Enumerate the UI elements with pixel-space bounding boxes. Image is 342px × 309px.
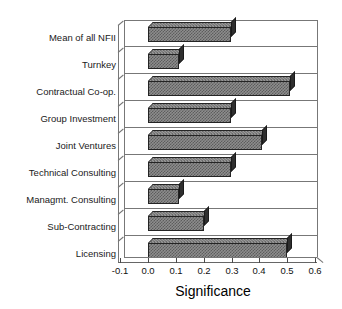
bar-front-face	[148, 135, 262, 150]
x-tick	[176, 258, 177, 263]
left-wall-back-edge	[124, 20, 125, 257]
back-wall-top	[124, 20, 317, 21]
floor-right-connector	[317, 257, 324, 263]
row-divider	[124, 181, 317, 182]
back-wall-right-edge	[317, 20, 318, 257]
bar-side-face	[179, 179, 184, 199]
x-tick	[120, 258, 121, 263]
bar-side-face	[262, 125, 267, 145]
floor-back-edge	[124, 257, 317, 258]
x-tick	[148, 258, 149, 263]
x-tick	[204, 258, 205, 263]
x-tick-label: 0.6	[302, 266, 328, 276]
row-divider	[124, 127, 317, 128]
bar-side-face	[179, 44, 184, 64]
bar-managmt-consulting	[148, 189, 179, 204]
bar-front-face	[148, 243, 287, 258]
x-axis-title: Significance	[42, 283, 342, 299]
x-tick-label: 0.3	[219, 266, 245, 276]
bar-chart: Mean of all NFII Turnkey Contractual Co-…	[0, 0, 342, 309]
x-tick	[315, 258, 316, 263]
bar-side-face	[231, 152, 236, 172]
x-tick	[259, 258, 260, 263]
bar-side-face	[204, 206, 209, 226]
x-tick-label: 0.1	[163, 266, 189, 276]
bar-front-face	[148, 81, 290, 96]
bar-side-face	[287, 233, 292, 253]
x-tick-label: 0.4	[246, 266, 272, 276]
bar-front-face	[148, 108, 231, 123]
x-tick-label: 0.2	[191, 266, 217, 276]
bar-front-face	[148, 54, 179, 69]
bar-side-face	[231, 98, 236, 118]
bar-contractual-co-op	[148, 81, 290, 96]
bar-front-face	[148, 216, 204, 231]
bar-joint-ventures	[148, 135, 262, 150]
x-tick	[287, 258, 288, 263]
bar-licensing	[148, 243, 287, 258]
bar-mean-of-all-nfii	[148, 27, 231, 42]
bar-group-investment	[148, 108, 231, 123]
bar-sub-contracting	[148, 216, 204, 231]
row-divider	[124, 100, 317, 101]
plot-area: -0.1 0.0 0.1 0.2 0.3 0.4 0.5 0.6 Signifi…	[0, 0, 342, 309]
row-divider	[124, 73, 317, 74]
x-tick-label: -0.1	[107, 266, 133, 276]
row-divider	[124, 208, 317, 209]
row-divider	[124, 154, 317, 155]
row-divider	[124, 46, 317, 47]
bar-front-face	[148, 189, 179, 204]
left-wall-front-edge	[118, 25, 119, 262]
bar-technical-consulting	[148, 162, 231, 177]
bar-front-face	[148, 27, 231, 42]
x-tick-label: 0.0	[135, 266, 161, 276]
wall-rung	[118, 21, 124, 26]
bar-side-face	[290, 71, 295, 91]
x-tick-label: 0.5	[274, 266, 300, 276]
bar-side-face	[231, 17, 236, 37]
bar-turnkey	[148, 54, 179, 69]
x-tick	[232, 258, 233, 263]
bar-front-face	[148, 162, 231, 177]
